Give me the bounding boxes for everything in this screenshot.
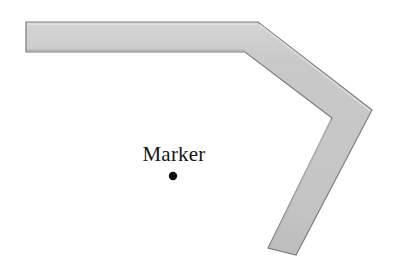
diagram-svg [0,0,394,273]
marker-label: Marker [0,143,394,166]
marker-dot [169,172,177,180]
marker-label-text: Marker [142,142,205,166]
diagram-canvas: Marker [0,0,394,273]
